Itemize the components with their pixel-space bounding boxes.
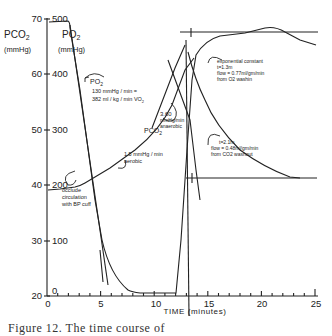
x-tick: 25 xyxy=(311,298,322,309)
y-tick-labels: 70 60 50 40 30 20 500 400 300 200 100 0 xyxy=(31,13,67,301)
annotation-occlude: with BP cuff xyxy=(61,201,91,207)
x-tick: 5 xyxy=(98,298,103,309)
pco2-drop xyxy=(168,60,200,200)
y-right-tick: 300 xyxy=(52,124,68,135)
pco2-axis-title: PCO2 xyxy=(4,29,30,41)
annotations: PO2 130 mmHg / min = 382 ml / kg / min V… xyxy=(61,58,265,207)
annotation-washout: from CO2 washout xyxy=(211,151,253,157)
figure-caption: Figure 12. The time course of xyxy=(8,321,165,336)
annotation-aerobic-rate: 1.5 mmHg / min xyxy=(124,151,163,157)
y-right-tick: 400 xyxy=(52,68,68,79)
y-left-tick: 40 xyxy=(31,179,42,190)
y-left-tick: 60 xyxy=(31,68,42,79)
pco2-unit: (mmHg) xyxy=(4,45,32,54)
x-tick: 10 xyxy=(151,298,162,309)
y-right-tick: 100 xyxy=(52,235,68,246)
annotation-vo2: 382 ml / kg / min VO2 xyxy=(92,96,145,104)
curves xyxy=(48,21,318,316)
annotation-occlude: occlude xyxy=(62,187,81,193)
annotation-po2-rate: 130 mmHg / min = xyxy=(92,88,137,94)
y-right-tick: 0 xyxy=(52,285,57,296)
y-right-tick: 500 xyxy=(52,13,68,24)
annotation-po2: PO2 xyxy=(90,78,103,87)
annotation-occlude: circulation xyxy=(62,194,87,200)
annotation-anaerobic: anaerobic xyxy=(160,123,182,129)
y-left-tick: 20 xyxy=(31,290,42,301)
po2-tangent-line xyxy=(70,25,108,285)
x-axis-title: TIME (minutes) xyxy=(163,307,226,316)
y-left-tick: 70 xyxy=(31,13,42,24)
po2-unit: (mmHg) xyxy=(58,45,86,54)
y-left-tick: 30 xyxy=(31,235,42,246)
annotation-aerobic: aerobic xyxy=(124,158,142,164)
annotation-arrows xyxy=(65,57,222,185)
y-left-tick: 50 xyxy=(31,124,42,135)
x-tick: 20 xyxy=(257,298,268,309)
axes xyxy=(44,18,318,296)
x-tick: 0 xyxy=(45,298,50,309)
annotation-exponential: from O2 washin xyxy=(217,76,252,82)
